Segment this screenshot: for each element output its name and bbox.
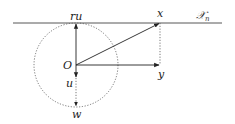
label-w: w [72, 108, 82, 121]
label-origin: O [63, 59, 72, 72]
vector-diagram: ru x O y u w 𝒳n [0, 0, 235, 124]
arrow-o-to-x [76, 24, 159, 66]
label-ru: ru [70, 10, 82, 23]
label-x: x [157, 7, 164, 20]
label-u: u [66, 77, 73, 90]
label-hyperplane: 𝒳n [196, 9, 210, 23]
label-y: y [157, 68, 165, 81]
